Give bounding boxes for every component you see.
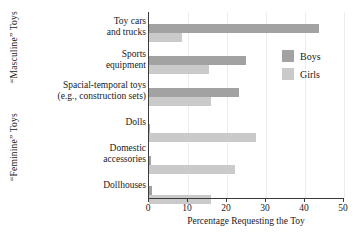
bar-dolls-boys <box>149 124 150 133</box>
bar-toy-cars-boys <box>149 24 319 33</box>
category-axis-labels: Toy cars and trucks Sports equipment Spa… <box>24 12 146 198</box>
x-axis-line <box>148 198 344 199</box>
plot-area <box>148 12 344 198</box>
gridline-50 <box>344 12 345 198</box>
gridline-30 <box>266 12 267 198</box>
x-tick-0 <box>148 198 149 202</box>
gridline-40 <box>305 12 306 198</box>
x-tick-label-0: 0 <box>135 203 161 213</box>
legend-item-girls: Girls <box>282 65 352 83</box>
bar-chart-figure: “Masculine” Toys “Feminine” Toys Toy car… <box>0 0 363 242</box>
category-label-domestic-accessories: Domestic accessories <box>24 143 146 164</box>
x-tick-40 <box>304 198 305 202</box>
group-label-masculine: “Masculine” Toys <box>9 0 19 95</box>
bar-spacial-temporal-boys <box>149 88 239 97</box>
x-tick-label-30: 30 <box>252 203 278 213</box>
chart-legend: Boys Girls <box>282 47 352 83</box>
bar-domestic-accessories-boys <box>149 156 151 165</box>
x-axis-title: Percentage Requesting the Toy <box>148 216 344 226</box>
category-label-toy-cars: Toy cars and trucks <box>24 16 146 37</box>
category-label-dolls: Dolls <box>24 117 146 128</box>
x-tick-20 <box>226 198 227 202</box>
bar-toy-cars-girls <box>149 33 182 42</box>
legend-item-boys: Boys <box>282 47 352 65</box>
category-label-sports: Sports equipment <box>24 49 146 70</box>
bar-sports-boys <box>149 56 246 65</box>
x-tick-label-20: 20 <box>213 203 239 213</box>
bar-dollhouses-boys <box>149 186 152 195</box>
legend-label-girls: Girls <box>300 69 320 80</box>
group-axis: “Masculine” Toys “Feminine” Toys <box>0 0 22 210</box>
x-tick-50 <box>343 198 344 202</box>
legend-swatch-boys <box>282 50 294 62</box>
x-tick-label-10: 10 <box>174 203 200 213</box>
bar-sports-girls <box>149 65 209 74</box>
group-label-feminine: “Feminine” Toys <box>9 101 19 193</box>
category-label-spacial-temporal: Spacial-temporal toys (e.g., constructio… <box>24 80 146 101</box>
x-tick-30 <box>265 198 266 202</box>
category-label-dollhouses: Dollhouses <box>24 180 146 191</box>
x-tick-label-40: 40 <box>291 203 317 213</box>
bar-domestic-accessories-girls <box>149 165 235 174</box>
bar-spacial-temporal-girls <box>149 97 211 106</box>
legend-label-boys: Boys <box>300 51 321 62</box>
x-tick-10 <box>187 198 188 202</box>
bar-dolls-girls <box>149 133 256 142</box>
x-axis-tick-labels: 01020304050 <box>148 203 344 216</box>
x-tick-label-50: 50 <box>330 203 356 213</box>
legend-swatch-girls <box>282 68 294 80</box>
